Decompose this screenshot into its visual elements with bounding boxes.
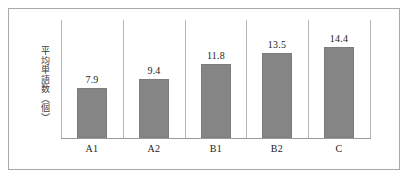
category-divider [185, 20, 186, 138]
category-label: B2 [246, 143, 308, 154]
bar[interactable] [201, 64, 231, 138]
category-divider [246, 20, 247, 138]
bar-value-label: 14.4 [312, 33, 366, 44]
bar[interactable] [139, 79, 169, 138]
category-divider [370, 20, 371, 138]
bar-value-label: 7.9 [65, 74, 119, 85]
bar[interactable] [324, 47, 354, 138]
bar-slot [262, 20, 292, 138]
category-label: A1 [61, 143, 123, 154]
category-label: A2 [123, 143, 185, 154]
bar-slot [139, 20, 169, 138]
x-axis-line [61, 138, 371, 139]
bar-value-label: 9.4 [127, 65, 181, 76]
bar[interactable] [77, 88, 107, 138]
bar-slot [201, 20, 231, 138]
category-label: C [308, 143, 370, 154]
chart-figure: 平均単語数（個） 7.9A19.4A211.8B113.5B214.4C [0, 0, 409, 183]
bar-value-label: 11.8 [189, 50, 243, 61]
category-divider [308, 20, 309, 138]
category-label: B1 [185, 143, 247, 154]
y-axis-label: 平均単語数（個） [28, 36, 50, 132]
category-divider [61, 20, 62, 138]
bar[interactable] [262, 53, 292, 138]
category-divider [123, 20, 124, 138]
bar-value-label: 13.5 [250, 39, 304, 50]
